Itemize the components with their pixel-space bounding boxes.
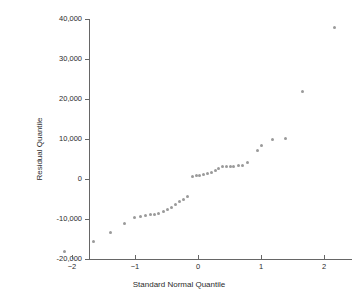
x-tick-label: 0	[178, 263, 218, 271]
x-tick-mark	[135, 255, 136, 259]
data-point	[191, 175, 194, 178]
data-point	[109, 231, 112, 234]
data-point	[63, 250, 66, 253]
data-point	[174, 203, 177, 206]
x-tick-label: 1	[241, 263, 281, 271]
data-point	[232, 165, 235, 168]
x-axis-title: Standard Normal Quantile	[0, 280, 358, 289]
data-point	[237, 164, 240, 167]
data-point	[333, 26, 336, 29]
x-axis-line	[89, 259, 352, 260]
plot-area: -20,000-10,000010,00020,00030,00040,000 …	[0, 0, 358, 297]
data-point	[229, 165, 232, 168]
y-tick-mark	[85, 179, 89, 180]
y-tick-mark	[85, 19, 89, 20]
y-tick-label: 40,000	[59, 15, 82, 23]
data-point	[162, 210, 165, 213]
data-point	[260, 144, 263, 147]
y-tick-mark	[85, 219, 89, 220]
x-tick-label: −1	[115, 263, 155, 271]
data-point	[271, 138, 274, 141]
y-tick-label: 20,000	[59, 95, 82, 103]
data-point	[166, 208, 169, 211]
y-axis-line	[89, 19, 90, 259]
y-tick-label: 0	[78, 175, 82, 183]
data-point	[284, 137, 287, 140]
data-point	[186, 195, 189, 198]
x-tick-label: −2	[52, 263, 92, 271]
data-point	[246, 161, 249, 164]
data-point	[123, 222, 126, 225]
data-point	[139, 215, 142, 218]
x-tick-mark	[198, 255, 199, 259]
y-tick-mark	[85, 99, 89, 100]
data-point	[149, 213, 152, 216]
data-point	[153, 213, 156, 216]
x-tick-label: 2	[304, 263, 344, 271]
x-tick-mark	[72, 255, 73, 259]
qq-plot-figure: -20,000-10,000010,00020,00030,00040,000 …	[0, 0, 358, 297]
y-tick-label: 10,000	[59, 135, 82, 143]
data-point	[202, 173, 205, 176]
y-tick-label: 30,000	[59, 55, 82, 63]
data-point	[256, 149, 259, 152]
data-point	[198, 174, 201, 177]
y-axis-title: Residual Quantile	[35, 117, 44, 180]
y-tick-mark	[85, 259, 89, 260]
data-point	[206, 172, 209, 175]
data-point	[195, 174, 198, 177]
data-point	[178, 200, 181, 203]
data-point	[301, 90, 304, 93]
x-tick-mark	[261, 255, 262, 259]
data-point	[170, 206, 173, 209]
y-tick-label: -10,000	[57, 215, 82, 223]
data-point	[225, 165, 228, 168]
data-point	[217, 167, 220, 170]
data-point	[133, 216, 136, 219]
data-point	[182, 198, 185, 201]
data-point	[241, 164, 244, 167]
data-point	[157, 212, 160, 215]
data-point	[92, 240, 95, 243]
data-point	[214, 169, 217, 172]
x-tick-mark	[324, 255, 325, 259]
y-tick-mark	[85, 59, 89, 60]
y-tick-mark	[85, 139, 89, 140]
data-point	[221, 165, 224, 168]
data-point	[144, 214, 147, 217]
data-point	[210, 171, 213, 174]
